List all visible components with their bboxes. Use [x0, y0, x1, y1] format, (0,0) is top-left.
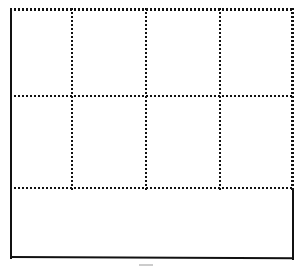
table-border-right-solid: [292, 190, 294, 260]
table-cell[interactable]: [147, 10, 219, 95]
table-cell[interactable]: [147, 97, 219, 187]
table-cell[interactable]: [73, 10, 145, 95]
table-cell[interactable]: [221, 97, 291, 187]
table-cell[interactable]: [221, 10, 291, 95]
table-border-right-dotted: [291, 8, 294, 191]
table-cell-fullwidth[interactable]: [12, 189, 291, 256]
table-cell[interactable]: [73, 97, 145, 187]
scanned-page: [0, 0, 302, 270]
table-cell[interactable]: [12, 97, 71, 187]
table-border-bottom: [10, 256, 294, 259]
scan-speck: [139, 264, 153, 266]
table-cell[interactable]: [12, 10, 71, 95]
blank-grid-table: [10, 8, 293, 258]
